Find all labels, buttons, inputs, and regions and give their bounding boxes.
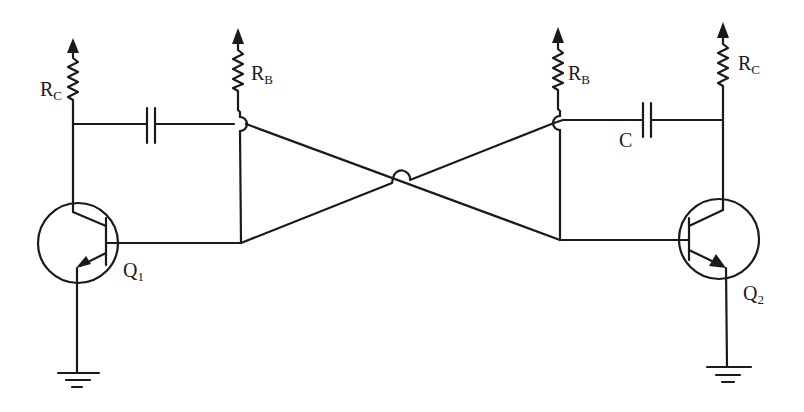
wire-cross-q1-base-to-right-cap xyxy=(241,123,554,243)
capacitor-left xyxy=(73,108,234,143)
ground-right xyxy=(707,367,751,382)
vcc-arrow-icon xyxy=(232,28,244,44)
label-rc-left: RC xyxy=(40,78,62,103)
transistor-q1 xyxy=(38,203,241,373)
ground-left xyxy=(58,373,99,387)
label-q2: Q2 xyxy=(743,282,764,307)
label-rb-left: RB xyxy=(251,62,273,87)
label-rb-right: RB xyxy=(568,62,590,87)
emitter-arrow-icon xyxy=(76,256,91,268)
resistor-rb-left xyxy=(232,28,247,243)
resistor-rb-right xyxy=(552,27,564,240)
vcc-arrow-icon xyxy=(67,38,79,53)
capacitor-right xyxy=(554,103,723,137)
label-q1: Q1 xyxy=(123,259,144,284)
label-cap-right: C xyxy=(619,129,632,151)
transistor-q2 xyxy=(560,199,759,367)
resistor-rc-left xyxy=(67,38,79,125)
label-rc-right: RC xyxy=(738,52,760,77)
circuit-diagram: RC RB Q1 xyxy=(0,0,804,412)
vcc-arrow-icon xyxy=(717,22,729,38)
vcc-arrow-icon xyxy=(552,27,564,43)
resistor-rc-right xyxy=(717,22,729,210)
